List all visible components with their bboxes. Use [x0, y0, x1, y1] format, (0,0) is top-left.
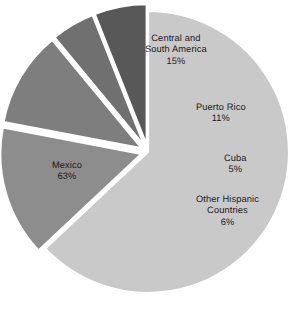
- pie-slice-label-name: Central and: [145, 33, 207, 44]
- pie-slice-label-value: 6%: [196, 217, 259, 228]
- pie-slice-label-value: 15%: [145, 56, 207, 67]
- pie-slice-label-value: 5%: [224, 164, 247, 175]
- pie-slice-label: Other HispanicCountries6%: [196, 194, 259, 228]
- pie-slice-label: Cuba5%: [224, 153, 247, 176]
- pie-slice-label-name: Mexico: [52, 160, 82, 171]
- pie-slice-label-name: Cuba: [224, 153, 247, 164]
- pie-slice-label-name: Puerto Rico: [196, 102, 246, 113]
- pie-slice-label: Mexico63%: [52, 160, 82, 183]
- pie-slice-label-value: 11%: [196, 113, 246, 124]
- pie-chart: Mexico63%Central andSouth America15%Puer…: [0, 0, 293, 309]
- pie-slice-label: Central andSouth America15%: [145, 33, 207, 67]
- pie-slice-label-name-2: Countries: [196, 205, 259, 216]
- pie-slice-label-name-2: South America: [145, 44, 207, 55]
- pie-slice-label-value: 63%: [52, 171, 82, 182]
- pie-slice-label-name: Other Hispanic: [196, 194, 259, 205]
- pie-slice-label: Puerto Rico11%: [196, 102, 246, 125]
